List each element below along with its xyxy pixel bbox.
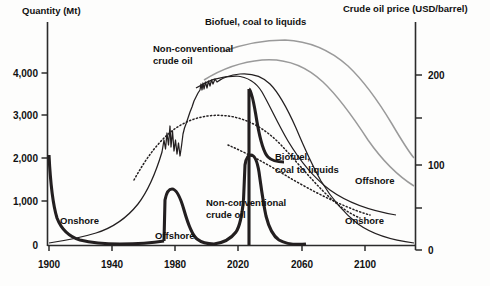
chart-figure: 4,000 3,000 2,000 1,000 0 Quantity (Mt) …: [0, 0, 490, 286]
left-tick-3000: 3,000: [13, 110, 38, 121]
label-onshore-left: Onshore: [60, 215, 99, 226]
x-tick-2020: 2020: [227, 259, 250, 270]
x-tick-1980: 1980: [164, 259, 187, 270]
left-tick-0: 0: [32, 240, 38, 251]
x-tick-2100: 2100: [354, 259, 377, 270]
series-offshore-price-decline: [196, 76, 396, 215]
right-tick-200: 200: [428, 70, 445, 81]
label-non-conventional-crude-oil-mid-line1: Non-conventional: [206, 197, 286, 208]
label-biofuel-coal-to-liquids-top: Biofuel, coal to liquids: [205, 16, 306, 27]
left-tick-1000: 1,000: [13, 196, 38, 207]
left-tick-2000: 2,000: [13, 153, 38, 164]
bottom-axis: 1900 1940 1980 2020 2060 2100: [38, 246, 416, 271]
oil-quantity-price-chart: 4,000 3,000 2,000 1,000 0 Quantity (Mt) …: [0, 0, 490, 286]
label-non-conventional-crude-oil-top-line2: crude oil: [153, 55, 193, 66]
left-axis-title: Quantity (Mt): [22, 5, 81, 16]
x-tick-2060: 2060: [291, 259, 314, 270]
label-offshore-left: Offshore: [155, 230, 195, 241]
label-biofuel-mid-line2: coal to liquids: [275, 164, 339, 175]
left-tick-4000: 4,000: [13, 68, 38, 79]
right-tick-100: 100: [428, 160, 445, 171]
x-tick-1900: 1900: [38, 259, 61, 270]
label-offshore-right: Offshore: [355, 175, 395, 186]
label-non-conventional-crude-oil-mid-line2: crude oil: [206, 209, 246, 220]
right-tick-0: 0: [428, 245, 434, 256]
series-onshore-price: [49, 155, 164, 244]
x-tick-1940: 1940: [101, 259, 124, 270]
label-onshore-right: Onshore: [345, 215, 384, 226]
label-non-conventional-crude-oil-top-line1: Non-conventional: [153, 43, 233, 54]
label-biofuel-mid-line1: Biofuel,: [275, 151, 310, 162]
right-axis-title: Crude oil price (USD/barrel): [343, 3, 468, 14]
